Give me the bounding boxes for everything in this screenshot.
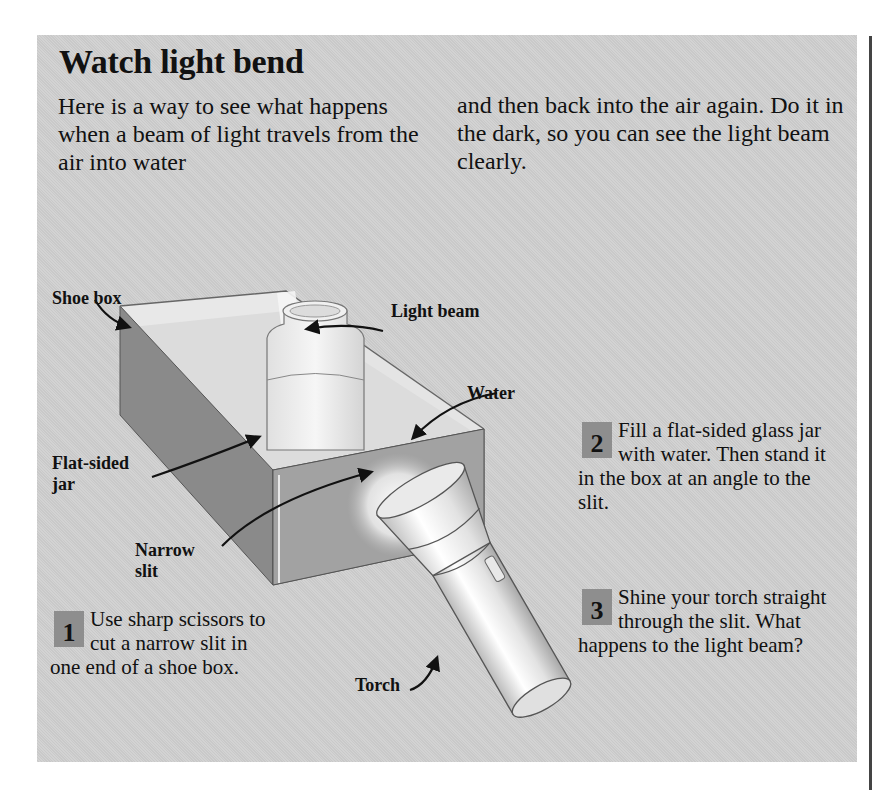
label-water: Water [467, 383, 515, 404]
label-light-beam: Light beam [391, 301, 480, 322]
step-number-badge: 2 [582, 422, 612, 458]
label-narrow-slit: Narrow slit [135, 540, 195, 582]
activity-panel: Watch light bend Here is a way to see wh… [37, 35, 857, 762]
step-2: 2 Fill a flat-sided glass jar with water… [578, 418, 838, 514]
label-flat-sided-jar: Flat-sided jar [52, 453, 129, 495]
step-3: 3 Shine your torch straight through the … [578, 585, 838, 657]
step-number-badge: 1 [54, 611, 84, 647]
step-number-badge: 3 [582, 589, 612, 625]
page-edge-rule [869, 36, 872, 790]
label-shoe-box: Shoe box [52, 288, 122, 309]
step-text: Fill a flat-sided glass jar with water. … [578, 418, 826, 514]
step-text: Shine your torch straight through the sl… [578, 585, 826, 657]
label-torch: Torch [355, 675, 400, 696]
step-1: 1 Use sharp scissors to cut a narrow sli… [50, 607, 280, 679]
